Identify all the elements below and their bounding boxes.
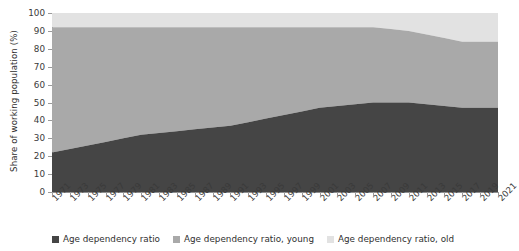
- y-axis-tick-label: 40: [34, 115, 45, 125]
- legend-item[interactable]: Age dependency ratio, young: [173, 234, 314, 244]
- y-axis-tick-label: 30: [34, 133, 45, 143]
- x-axis-tick-mark: [480, 192, 481, 196]
- y-axis-tick-label: 0: [39, 187, 45, 197]
- legend-item[interactable]: Age dependency ratio, old: [327, 234, 454, 244]
- x-axis-tick-mark: [195, 192, 196, 196]
- stacked-area-paths: [52, 13, 498, 192]
- x-axis-tick-mark: [284, 192, 285, 196]
- x-axis-tick-mark: [70, 192, 71, 196]
- chart-legend: Age dependency ratioAge dependency ratio…: [0, 232, 506, 246]
- y-axis-tick-label: 60: [34, 80, 45, 90]
- x-axis-tick-mark: [302, 192, 303, 196]
- x-axis-tick-mark: [230, 192, 231, 196]
- x-axis-tick-mark: [498, 192, 499, 196]
- x-axis-tick-mark: [391, 192, 392, 196]
- x-axis-tick-mark: [355, 192, 356, 196]
- x-axis-tick-mark: [141, 192, 142, 196]
- legend-item[interactable]: Age dependency ratio: [52, 234, 160, 244]
- x-axis-tick-mark: [177, 192, 178, 196]
- x-axis-tick-mark: [123, 192, 124, 196]
- y-axis-tick-label: 10: [34, 169, 45, 179]
- x-axis-tick-mark: [337, 192, 338, 196]
- legend-label: Age dependency ratio, old: [338, 234, 454, 244]
- legend-swatch-icon: [52, 236, 59, 243]
- legend-label: Age dependency ratio, young: [184, 234, 314, 244]
- y-axis-tick-label: 70: [34, 62, 45, 72]
- x-axis-tick-mark: [213, 192, 214, 196]
- x-axis-tick-mark: [320, 192, 321, 196]
- y-axis-title: Share of working population (%): [9, 13, 19, 189]
- x-axis-tick-mark: [427, 192, 428, 196]
- y-axis-tick-label: 50: [34, 98, 45, 108]
- x-axis-tick-mark: [409, 192, 410, 196]
- legend-swatch-icon: [327, 236, 334, 243]
- x-axis-tick-mark: [248, 192, 249, 196]
- plot-area: [52, 13, 498, 192]
- x-axis-tick-mark: [106, 192, 107, 196]
- y-axis-tick-label: 80: [34, 44, 45, 54]
- x-axis-tick-mark: [373, 192, 374, 196]
- x-axis-tick-mark: [159, 192, 160, 196]
- legend-swatch-icon: [173, 236, 180, 243]
- y-axis-tick-label: 90: [34, 26, 45, 36]
- y-axis-tick-label: 100: [28, 8, 45, 18]
- x-axis-tick-mark: [462, 192, 463, 196]
- x-axis-tick-mark: [88, 192, 89, 196]
- y-axis-tick-label: 20: [34, 151, 45, 161]
- x-axis-tick-mark: [266, 192, 267, 196]
- x-axis-tick-mark: [444, 192, 445, 196]
- x-axis-tick-label: 2021: [496, 181, 519, 204]
- x-axis-tick-mark: [52, 192, 53, 196]
- legend-label: Age dependency ratio: [63, 234, 160, 244]
- top-clipped-artifact: [0, 0, 506, 4]
